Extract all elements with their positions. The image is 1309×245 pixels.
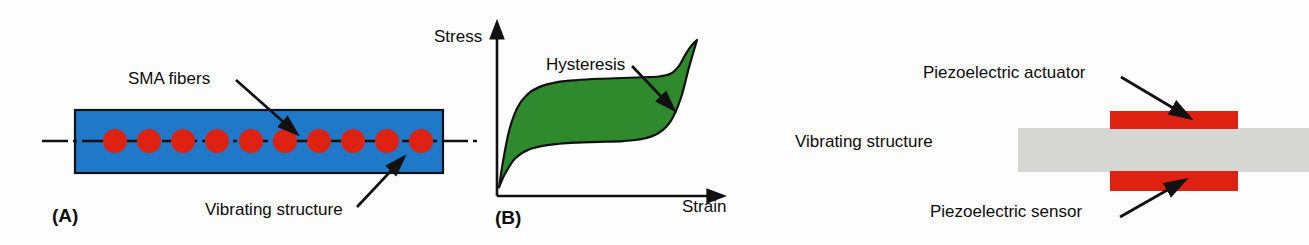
panel-b-tag: (B) <box>495 208 521 227</box>
vibrating-structure-label-c: Vibrating structure <box>795 133 933 150</box>
piezoelectric-actuator-patch <box>1110 111 1238 129</box>
sma-fiber <box>205 129 229 153</box>
sma-fiber <box>171 129 195 153</box>
panel-a-tag: (A) <box>52 206 78 225</box>
sma-fibers-label: SMA fibers <box>128 70 210 87</box>
panel-a-graphics <box>42 80 477 207</box>
sma-fiber <box>273 129 297 153</box>
figure-graphics <box>0 0 1309 245</box>
sma-fiber <box>409 129 433 153</box>
strain-axis-label: Strain <box>682 198 726 215</box>
sma-fiber <box>341 129 365 153</box>
figure-root: (A) SMA fibers Vibrating structure (B) S… <box>0 0 1309 245</box>
sma-fiber <box>137 129 161 153</box>
vibrating-structure-label-a: Vibrating structure <box>205 201 343 218</box>
piezoelectric-sensor-label: Piezoelectric sensor <box>930 203 1082 220</box>
piezoelectric-actuator-label: Piezoelectric actuator <box>923 64 1086 81</box>
sma-fiber <box>307 129 331 153</box>
piezoelectric-sensor-patch <box>1110 171 1238 191</box>
sma-fiber <box>239 129 263 153</box>
sma-fiber <box>103 129 127 153</box>
stress-axis-label: Stress <box>434 28 482 45</box>
panel-c-graphics <box>1018 77 1309 217</box>
sma-fiber <box>375 129 399 153</box>
vibrating-structure-plate <box>1018 128 1309 172</box>
panel-b-graphics <box>497 24 722 196</box>
hysteresis-annotation-label: Hysteresis <box>546 56 625 73</box>
